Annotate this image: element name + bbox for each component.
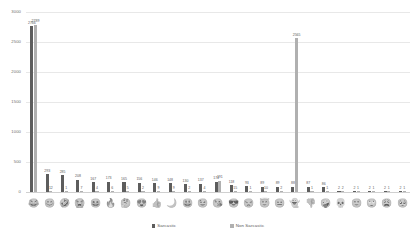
- bar-value-label: 1: [326, 187, 328, 191]
- bar-value-label: 1: [372, 187, 374, 191]
- bar: 146: [153, 183, 156, 192]
- bar-value-label: 6: [111, 187, 113, 191]
- grid-line: [26, 192, 410, 193]
- bar: 89: [276, 187, 279, 192]
- bar-value-label: 87: [306, 182, 310, 186]
- x-axis-category-grinning-squinting-face: 😆: [87, 194, 102, 212]
- bar-value-label: 173: [106, 177, 112, 181]
- bar-value-label: 148: [167, 179, 173, 183]
- fire-icon: 🔥: [105, 199, 116, 208]
- bar: 2: [384, 191, 387, 192]
- emoji-sarcasm-bar-chart: 050010001500200025003000 276627892931228…: [0, 0, 416, 238]
- bar-value-label: 10: [264, 187, 268, 191]
- bar-value-label: 293: [44, 170, 50, 174]
- bar-value-label: 2: [384, 187, 386, 191]
- x-axis-category-loudly-crying-face: 😭: [72, 194, 87, 212]
- smiling-face-with-heart-eyes-icon: 😍: [136, 199, 147, 208]
- bar: 2: [353, 191, 356, 192]
- bar-value-label: 1: [403, 187, 405, 191]
- x-axis-category-grinning-face-with-big-eyes: 😃: [180, 194, 195, 212]
- chart-legend: SarcasticNon Sarcastic: [0, 220, 416, 232]
- x-axis-category-slightly-smiling-face: 🙂: [349, 194, 364, 212]
- y-tick-label: 1500: [11, 100, 21, 104]
- bar-value-label: 146: [152, 179, 158, 183]
- bar-group: 8910: [256, 12, 271, 192]
- bar: 4: [203, 191, 206, 192]
- bar: 1: [326, 191, 329, 192]
- bar-value-label: 1: [250, 187, 252, 191]
- skull-icon: 💀: [335, 199, 346, 208]
- bar-group: 29312: [41, 12, 56, 192]
- bar: 156: [138, 183, 141, 192]
- bar: 9: [157, 191, 160, 192]
- bar-group: 2851: [57, 12, 72, 192]
- bar-group: 21: [364, 12, 379, 192]
- bar-value-label: 1: [357, 187, 359, 191]
- bar: 1: [372, 191, 375, 192]
- x-axis-category-neutral-face: 😐: [272, 194, 287, 212]
- y-tick-label: 2000: [11, 70, 21, 74]
- bar-value-label: 1: [388, 187, 390, 191]
- x-axis-category-crescent-moon: 🌙: [164, 194, 179, 212]
- bar: 2: [341, 191, 344, 192]
- x-axis-category-skull: 💀: [333, 194, 348, 212]
- bar: 4: [95, 191, 98, 192]
- bar-value-label: 15: [233, 187, 237, 191]
- bar: 2565: [295, 38, 298, 192]
- bar: 6: [111, 191, 114, 192]
- legend-swatch-icon: [152, 224, 156, 228]
- x-axis-category-winking-face: 😉: [195, 194, 210, 212]
- bar-value-label: 86: [322, 183, 326, 187]
- bar: 2: [368, 191, 371, 192]
- bar: 148: [169, 183, 172, 192]
- face-with-tears-of-joy-icon: 😂: [28, 199, 39, 208]
- legend-label: Sarcastic: [157, 224, 176, 228]
- loudly-crying-face-icon: 😭: [74, 199, 85, 208]
- x-axis-category-smiling-face-with-heart-eyes: 😍: [134, 194, 149, 212]
- bar-value-label: 2: [280, 187, 282, 191]
- bar-group: 21: [395, 12, 410, 192]
- bar-group: 871: [302, 12, 317, 192]
- x-axis-category-ghost: 👻: [287, 194, 302, 212]
- x-axis-category-unamused-face: 😒: [241, 194, 256, 212]
- bar: 1: [357, 191, 360, 192]
- x-axis-category-thumbs-up: 👍: [149, 194, 164, 212]
- bar: 1: [65, 191, 68, 192]
- x-axis-category-thumbs-down: 👎: [302, 194, 317, 212]
- bar-value-label: 9: [157, 187, 159, 191]
- bar-group: 174191: [210, 12, 225, 192]
- bar: 2789: [34, 25, 37, 192]
- weary-face-icon: 😩: [381, 199, 392, 208]
- bar-value-label: 2: [338, 187, 340, 191]
- bar-group: 1489: [164, 12, 179, 192]
- bar-value-label: 2: [399, 187, 401, 191]
- bar: 2: [337, 191, 340, 192]
- bar-value-label: 2: [342, 187, 344, 191]
- bar-value-label: 1: [311, 187, 313, 191]
- plot-area: 2766278929312285120871674173616551562146…: [26, 12, 410, 192]
- grinning-squinting-face-icon: 😆: [90, 199, 101, 208]
- legend-item[interactable]: Sarcastic: [152, 224, 176, 228]
- x-axis-category-face-with-tears-of-joy: 😂: [26, 194, 41, 212]
- smiling-face-with-smiling-eyes-icon: 😊: [44, 199, 55, 208]
- legend-item[interactable]: Non Sarcastic: [230, 224, 264, 228]
- x-axis-category-face-blowing-a-kiss: 😘: [210, 194, 225, 212]
- bar-value-label: 137: [198, 179, 204, 183]
- bar: 137: [199, 184, 202, 192]
- bar-group: 21: [379, 12, 394, 192]
- bar-group: 1655: [118, 12, 133, 192]
- bar: 173: [107, 182, 110, 192]
- bar-group: 1374: [195, 12, 210, 192]
- bar: 86: [322, 187, 325, 192]
- x-axis-category-smiling-face-with-smiling-eyes: 😊: [41, 194, 56, 212]
- bar: 2: [188, 191, 191, 192]
- x-axis-category-pleading-face: 🥺: [395, 194, 410, 212]
- bar-group: 861: [318, 12, 333, 192]
- y-tick-label: 1000: [11, 130, 21, 134]
- bar: 167: [92, 182, 95, 192]
- unamused-face-icon: 😒: [243, 199, 254, 208]
- bar-value-label: 208: [75, 175, 81, 179]
- bar-group: 27662789: [26, 12, 41, 192]
- bar: 10: [264, 191, 267, 192]
- face-with-rolling-eyes-icon: 🙄: [366, 199, 377, 208]
